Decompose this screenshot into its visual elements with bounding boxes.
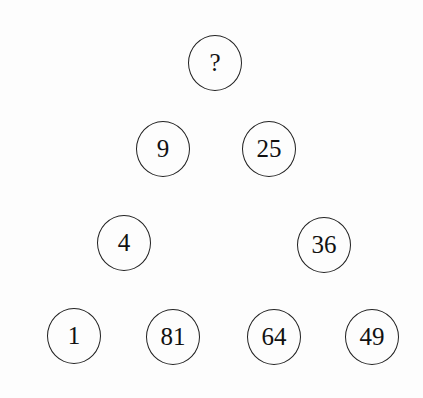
circle-25: 25: [242, 121, 296, 177]
circle-9: 9: [136, 121, 190, 177]
circle-49: 49: [345, 309, 399, 365]
circle-81: 81: [146, 309, 200, 365]
circle-4: 4: [97, 215, 151, 271]
puzzle-canvas: ? 9 25 4 36 1 81 64 49: [0, 0, 423, 398]
circle-1: 1: [47, 308, 101, 364]
circle-missing-value: ?: [188, 35, 242, 91]
circle-36: 36: [297, 217, 351, 273]
circle-64: 64: [247, 309, 301, 365]
